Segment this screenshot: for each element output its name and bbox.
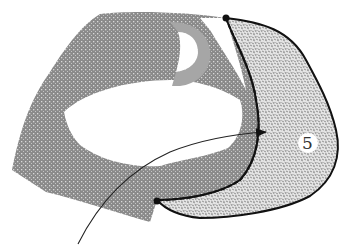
top-endpoint-dot <box>223 15 230 22</box>
bottom-endpoint-dot <box>154 198 161 205</box>
region-label-5: 5 <box>302 133 313 153</box>
diagram-canvas: 5 <box>0 0 352 247</box>
